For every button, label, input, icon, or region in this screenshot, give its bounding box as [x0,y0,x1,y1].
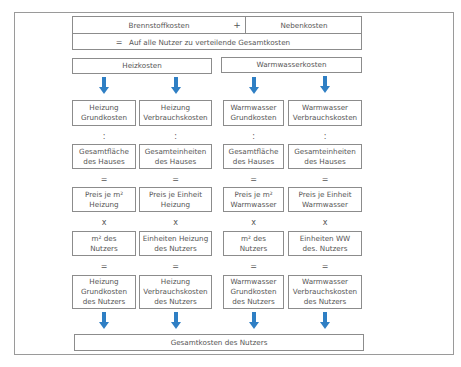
hot-water-base-down-arrow-icon [249,77,259,95]
hot-water-base-bottom-down-arrow-icon [249,312,259,330]
heating-consumption-operator: = [166,262,186,271]
heating-consumption-operator: = [166,175,186,184]
hot-water-base-user-units-box-label: m² des Nutzers [240,234,268,254]
hot-water-consumption-unit-price-box: Preis je Einheit Warmwasser [288,187,362,212]
hot-water-base-operator: x [244,218,264,227]
hot-water-base-cost-box-label: Warmwasser Grundkosten [230,103,276,123]
heating-costs-box: Heizkosten [72,58,212,74]
hot-water-consumption-bottom-down-arrow-icon [320,312,330,330]
hot-water-base-operator: : [244,132,264,141]
hot-water-consumption-user-units-box: Einheiten WW des. Nutzers [288,231,362,256]
hot-water-base-cost-box: Warmwasser Grundkosten [223,100,284,126]
heating-base-operator: x [94,218,114,227]
hot-water-costs-box: Warmwasserkosten [221,57,362,73]
heating-base-unit-price-box: Preis je m² Heizung [72,187,136,212]
hot-water-base-unit-price-box: Preis je m² Warmwasser [223,187,284,212]
hot-water-base-total-basis-box: Gesamtfläche des Hauses [223,144,284,169]
heating-consumption-operator: x [166,218,186,227]
heating-base-cost-box: Heizung Grundkosten [72,100,136,126]
hot-water-base-operator: = [244,175,264,184]
heating-base-total-basis-box-label: Gesamtfläche des Hauses [79,147,129,167]
heating-base-user-cost-box-label: Heizung Grundkosten des Nutzers [81,277,127,307]
heating-consumption-user-cost-box-label: Heizung Verbrauchskosten des Nutzers [143,277,207,307]
heating-base-unit-price-box-label: Preis je m² Heizung [85,190,123,210]
user-total-costs-box: Gesamtkosten des Nutzers [74,334,364,351]
heating-consumption-bottom-down-arrow-icon [171,312,181,330]
heating-base-user-units-box: m² des Nutzers [72,231,136,256]
heating-consumption-operator: : [166,132,186,141]
hot-water-base-user-cost-box: Warmwasser Grundkosten des Nutzers [223,275,284,309]
heating-base-user-units-box-label: m² des Nutzers [90,234,118,254]
heating-consumption-total-basis-box: Gesamteinheiten des Hauses [139,144,212,169]
hot-water-consumption-operator: = [315,175,335,184]
hot-water-consumption-down-arrow-icon [320,76,330,94]
heating-consumption-user-units-box-label: Einheiten Heizung des Nutzers [143,234,208,254]
fuel-costs-label: Brennstoffkosten [73,17,245,33]
heating-consumption-down-arrow-icon [171,77,181,95]
heating-consumption-cost-box-label: Heizung Verbrauchskosten [143,103,207,123]
hot-water-consumption-cost-box-label: Warmwasser Verbrauchskosten [293,103,357,123]
heating-base-cost-box-label: Heizung Grundkosten [81,103,127,123]
hot-water-base-unit-price-box-label: Preis je m² Warmwasser [230,190,276,210]
hot-water-consumption-user-units-box-label: Einheiten WW des. Nutzers [300,234,350,254]
total-distributable-costs-label: Auf alle Nutzer zu verteilende Gesamtkos… [129,34,349,50]
hot-water-consumption-operator: = [315,262,335,271]
heating-consumption-unit-price-box: Preis je Einheit Heizung [139,187,212,212]
hot-water-base-total-basis-box-label: Gesamtfläche des Hauses [229,147,279,167]
heating-consumption-cost-box: Heizung Verbrauchskosten [139,100,212,126]
hot-water-consumption-operator: : [315,132,335,141]
plus-operator: + [230,17,244,33]
hot-water-consumption-user-cost-box: Warmwasser Verbrauchskosten des Nutzers [288,275,362,309]
user-total-costs-label: Gesamtkosten des Nutzers [171,338,268,348]
hot-water-base-operator: = [244,262,264,271]
heating-base-user-cost-box: Heizung Grundkosten des Nutzers [72,275,136,309]
heating-base-operator: = [94,175,114,184]
heating-consumption-user-units-box: Einheiten Heizung des Nutzers [139,231,212,256]
hot-water-costs-label: Warmwasserkosten [257,60,327,70]
hot-water-base-user-units-box: m² des Nutzers [223,231,284,256]
heating-base-operator: = [94,262,114,271]
hot-water-base-user-cost-box-label: Warmwasser Grundkosten des Nutzers [230,277,276,307]
total-costs-box: Brennstoffkosten + Nebenkosten = Auf all… [72,16,362,50]
heating-consumption-user-cost-box: Heizung Verbrauchskosten des Nutzers [139,275,212,309]
hot-water-consumption-unit-price-box-label: Preis je Einheit Warmwasser [298,190,351,210]
heating-costs-label: Heizkosten [122,61,161,71]
heating-base-operator: : [94,132,114,141]
hot-water-consumption-total-basis-box: Gesamteinheiten des Hauses [288,144,362,169]
hot-water-consumption-cost-box: Warmwasser Verbrauchskosten [288,100,362,126]
hot-water-consumption-operator: x [315,218,335,227]
hot-water-consumption-user-cost-box-label: Warmwasser Verbrauchskosten des Nutzers [293,277,357,307]
heating-consumption-unit-price-box-label: Preis je Einheit Heizung [149,190,202,210]
heating-base-total-basis-box: Gesamtfläche des Hauses [72,144,136,169]
equals-operator: = [113,34,125,50]
ancillary-costs-label: Nebenkosten [246,17,362,33]
heating-base-down-arrow-icon [99,77,109,95]
hot-water-consumption-total-basis-box-label: Gesamteinheiten des Hauses [294,147,356,167]
heating-consumption-total-basis-box-label: Gesamteinheiten des Hauses [145,147,207,167]
heating-base-bottom-down-arrow-icon [99,312,109,330]
